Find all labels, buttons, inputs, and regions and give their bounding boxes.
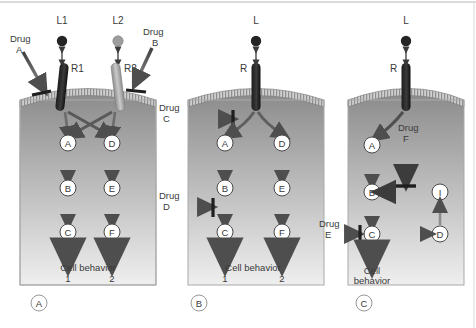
outcome-label-a: Cell behavior	[60, 262, 115, 273]
node-a-c-label: A	[369, 140, 376, 151]
drug-b-arrow	[137, 48, 152, 80]
ligand-l1	[57, 36, 67, 46]
node-c-a-label: C	[65, 227, 72, 238]
outcome-label-c-line2: behavior	[354, 275, 390, 286]
node-b-b-label: B	[222, 183, 228, 194]
outcome-1-b: 1	[222, 273, 227, 284]
ligand-l2-label: L2	[112, 15, 124, 26]
cell-body-b	[188, 94, 324, 286]
drug-b-inhibit-bar	[126, 90, 146, 92]
ligand-l-c-label: L	[403, 15, 409, 26]
panel-a: L1 R1 L2 R2 Drug A Drug B A	[10, 15, 164, 311]
drug-e-sub: E	[325, 229, 331, 240]
drug-a-name: Drug	[10, 33, 31, 44]
node-i-c-label: I	[439, 187, 442, 198]
node-d-b-label: D	[279, 138, 286, 149]
node-a-b-label: A	[222, 138, 229, 149]
panel-label-c: C	[361, 298, 368, 309]
receptor-r-b	[252, 63, 261, 111]
drug-d-name: Drug	[159, 190, 180, 201]
drug-f-name: Drug	[398, 122, 419, 133]
ligand-l-b	[251, 36, 261, 46]
node-d-c-label: D	[437, 229, 444, 240]
panel-label-b: B	[196, 298, 202, 309]
ligand-l2	[113, 36, 123, 46]
ligand-l-c	[401, 36, 411, 46]
drug-e-name: Drug	[319, 218, 340, 229]
node-f-a-label: F	[109, 227, 115, 238]
drug-a-arrow	[23, 52, 42, 86]
receptor-r-c-label: R	[390, 63, 397, 74]
outcome-2-b: 2	[279, 273, 284, 284]
receptor-r2-label: R2	[124, 63, 137, 74]
outcome-label-b: Cell behavior	[225, 262, 280, 273]
drug-f-sub: F	[403, 133, 409, 144]
outcome-2-a: 2	[109, 273, 114, 284]
signalling-diagram-svg: L1 R1 L2 R2 Drug A Drug B A	[0, 0, 476, 328]
node-d-a-label: D	[109, 138, 116, 149]
ligand-l1-label: L1	[56, 15, 68, 26]
drug-b-name: Drug	[143, 26, 164, 37]
node-e-b-label: E	[279, 183, 285, 194]
receptor-r1-label: R1	[71, 63, 84, 74]
node-c-c-label: C	[369, 229, 376, 240]
receptor-r-c	[402, 63, 411, 111]
figure-root: L1 R1 L2 R2 Drug A Drug B A	[0, 0, 476, 328]
panel-c: L R A Drug F B I C Drug E D Cell	[319, 15, 464, 311]
drug-b-sub: B	[152, 37, 158, 48]
node-e-a-label: E	[109, 183, 115, 194]
node-f-b-label: F	[279, 227, 285, 238]
drug-c-name: Drug	[159, 102, 180, 113]
node-b-a-label: B	[65, 183, 71, 194]
drug-d-sub: D	[163, 201, 170, 212]
receptor-r-b-label: R	[240, 63, 247, 74]
node-b-c-label: B	[369, 187, 375, 198]
outcome-1-a: 1	[65, 273, 70, 284]
node-c-b-label: C	[222, 227, 229, 238]
node-a-a-label: A	[65, 138, 72, 149]
panel-label-a: A	[36, 298, 43, 309]
panel-b: L R Drug C A B Drug D C D E F	[159, 15, 324, 311]
drug-c-sub: C	[163, 113, 170, 124]
ligand-l-b-label: L	[253, 15, 259, 26]
